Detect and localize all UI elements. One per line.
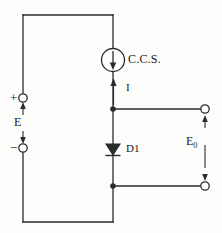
diode-triangle (106, 144, 120, 155)
current-arrow-head (111, 78, 117, 86)
node-bottom-dot (110, 183, 116, 189)
positive-sign-label: + (10, 91, 17, 104)
current-arrow (111, 78, 117, 105)
output-voltage-label: E0 (186, 135, 197, 150)
source-voltage-label: E (14, 116, 21, 128)
diode-symbol (106, 144, 121, 156)
eo-arrow-head-up (202, 115, 208, 122)
current-source-label: C.C.S. (128, 53, 161, 65)
output-voltage-label-subscript: 0 (193, 141, 197, 150)
circuit-diagram-canvas: C.C.S. I D1 E + − E0 (0, 0, 222, 233)
circuit-schematic (0, 0, 222, 233)
diode-label: D1 (126, 143, 139, 154)
node-top-dot (110, 106, 116, 112)
current-source-symbol (102, 49, 125, 72)
output-voltage-arrow (202, 115, 208, 181)
terminal-output-top-circle[interactable] (201, 105, 209, 113)
e-arrow-head-up (20, 102, 26, 109)
main-loop-wires (23, 15, 113, 222)
current-label: I (126, 82, 130, 93)
terminal-output-bottom-circle[interactable] (201, 182, 209, 190)
terminal-positive-circle[interactable] (19, 94, 27, 102)
eo-arrow-head-down (202, 174, 208, 181)
e-arrow-head-down (20, 137, 26, 144)
terminal-negative-circle[interactable] (19, 144, 27, 152)
negative-sign-label: − (10, 141, 17, 154)
